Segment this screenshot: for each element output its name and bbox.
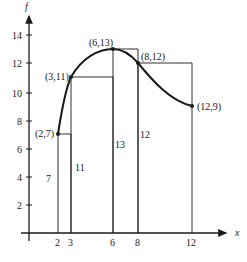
x-tick-6: 6 — [110, 237, 115, 248]
x-tick-2: 2 — [55, 237, 60, 248]
y-tick-14: 14 — [12, 30, 22, 41]
y-tick-8: 8 — [17, 116, 22, 127]
point-label-12-9: (12,9) — [197, 101, 221, 113]
x-axis-label: x — [234, 227, 240, 238]
point-12-9 — [190, 104, 194, 108]
rectangles — [58, 49, 192, 233]
y-tick-2: 2 — [17, 200, 22, 211]
point-label-2-7: (2,7) — [35, 128, 54, 140]
y-tick-12: 12 — [12, 58, 22, 69]
rect-label-7: 7 — [46, 173, 51, 184]
rect-label-12: 12 — [140, 129, 150, 140]
x-tick-12: 12 — [186, 237, 196, 248]
y-axis-label: f — [25, 1, 29, 12]
point-label-8-12: (8,12) — [141, 51, 165, 63]
rect-3-6 — [71, 77, 113, 233]
point-label-6-13: (6,13) — [89, 37, 113, 49]
function-curve — [58, 49, 192, 134]
point-8-12 — [136, 61, 140, 65]
point-2-7 — [56, 132, 60, 136]
point-label-3-11: (3,11) — [45, 71, 69, 83]
rect-8-12 — [138, 63, 192, 233]
y-tick-6: 6 — [17, 144, 22, 155]
diagram-canvas: x f 2 4 6 8 10 12 14 2 3 6 8 12 7 11 13 … — [0, 0, 247, 262]
y-tick-4: 4 — [17, 172, 22, 183]
x-tick-8: 8 — [135, 237, 140, 248]
x-tick-3: 3 — [68, 237, 73, 248]
y-tick-10: 10 — [12, 88, 22, 99]
point-3-11 — [69, 75, 73, 79]
riemann-sum-diagram: x f 2 4 6 8 10 12 14 2 3 6 8 12 7 11 13 … — [0, 0, 247, 262]
rect-2-3 — [58, 134, 71, 233]
rect-label-11: 11 — [75, 162, 85, 173]
rect-label-13: 13 — [115, 139, 125, 150]
